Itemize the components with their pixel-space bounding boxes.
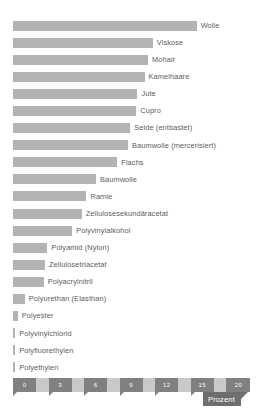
bar-fill [13, 243, 47, 253]
bar-fill [13, 345, 15, 355]
bar-fill [13, 226, 72, 236]
bar-left-margin [0, 85, 13, 102]
bar-left-margin [0, 17, 13, 34]
bar-fill [13, 21, 197, 31]
bar-fill [13, 89, 137, 99]
bar-category-label: Kamelhaare [149, 73, 190, 80]
bar-left-margin [0, 51, 13, 68]
bar-left-margin [0, 308, 13, 325]
bar-category-label: Wolle [201, 22, 220, 29]
bar-row: Cupro [0, 102, 257, 119]
bar-left-margin [0, 154, 13, 171]
bar-left-margin [0, 342, 13, 359]
bar-row: Jute [0, 85, 257, 102]
bar-row: Polyamid (Nylon) [0, 239, 257, 256]
bar-fill [13, 38, 153, 48]
bar-fill [13, 123, 130, 133]
bar-row: Flachs [0, 154, 257, 171]
bar-row: Polyacrylnitril [0, 273, 257, 290]
bar-row: Ramie [0, 188, 257, 205]
bar-fill [13, 260, 45, 270]
x-axis-tick: 0 [13, 378, 36, 392]
bar-left-margin [0, 171, 13, 188]
bar-category-label: Zellulosetriacetat [49, 261, 107, 268]
x-axis-tick: 3 [49, 378, 72, 392]
bar-row: Zellulosesekundäracetat [0, 205, 257, 222]
bar-left-margin [0, 68, 13, 85]
bar-category-label: Polyethylen [19, 364, 58, 371]
bar-category-label: Polyvinylchlorid [19, 330, 72, 337]
bar-category-label: Ramie [90, 193, 112, 200]
bar-fill [13, 209, 82, 219]
bar-left-margin [0, 256, 13, 273]
bar-left-margin [0, 239, 13, 256]
x-axis-tick: 20 [227, 378, 250, 392]
bar-row: Polyurethan (Elasthan) [0, 291, 257, 308]
bar-left-margin [0, 120, 13, 137]
bar-category-label: Zellulosesekundäracetat [86, 210, 168, 217]
bar-left-margin [0, 34, 13, 51]
bar-chart: WolleViskoseMohairKamelhaareJuteCuproSei… [0, 0, 257, 414]
bar-fill [13, 294, 25, 304]
bar-fill [13, 362, 15, 372]
bar-row: Zellulosetriacetat [0, 256, 257, 273]
bar-row: Polyester [0, 308, 257, 325]
bar-left-margin [0, 205, 13, 222]
x-axis-tick: 9 [120, 378, 143, 392]
bar-category-label: Polyvinylalkohol [76, 227, 130, 234]
x-axis-tick: 15 [191, 378, 214, 392]
bar-row: Viskose [0, 34, 257, 51]
bar-category-label: Baumwolle (mercerisiert) [132, 142, 216, 149]
bar-fill [13, 106, 136, 116]
bar-left-margin [0, 222, 13, 239]
bar-fill [13, 140, 128, 150]
bar-left-margin [0, 273, 13, 290]
bar-category-label: Jute [141, 90, 155, 97]
bar-category-label: Flachs [121, 159, 143, 166]
bar-category-label: Mohair [152, 56, 175, 63]
bar-category-label: Seide (entbastet) [134, 124, 192, 131]
x-axis-tick: 6 [84, 378, 107, 392]
bar-row: Wolle [0, 17, 257, 34]
bar-fill [13, 277, 44, 287]
bar-category-label: Polyamid (Nylon) [51, 244, 109, 251]
bar-row: Polyethylen [0, 359, 257, 376]
bar-left-margin [0, 359, 13, 376]
bar-category-label: Cupro [140, 107, 161, 114]
x-axis-unit-label: Prozent [203, 392, 241, 406]
bar-category-label: Viskose [157, 39, 183, 46]
bar-row: Polyfluorethylen [0, 342, 257, 359]
bar-row: Baumwolle [0, 171, 257, 188]
bar-left-margin [0, 376, 13, 393]
bar-fill [13, 311, 18, 321]
bar-category-label: Polyacrylnitril [48, 278, 93, 285]
bar-category-label: Polyurethan (Elasthan) [29, 295, 106, 302]
bar-row: Kamelhaare [0, 68, 257, 85]
bar-row: Polyvinylalkohol [0, 222, 257, 239]
bar-category-label: Polyfluorethylen [19, 347, 73, 354]
bar-fill [13, 174, 96, 184]
bar-fill [13, 328, 15, 338]
bar-row: Polyvinylchlorid [0, 325, 257, 342]
bar-row: Seide (entbastet) [0, 120, 257, 137]
bar-left-margin [0, 291, 13, 308]
x-axis-tick: 12 [155, 378, 178, 392]
bar-row: Baumwolle (mercerisiert) [0, 137, 257, 154]
bar-category-label: Baumwolle [100, 176, 137, 183]
bar-left-margin [0, 102, 13, 119]
bar-fill [13, 191, 86, 201]
bar-fill [13, 72, 145, 82]
bar-fill [13, 157, 117, 167]
x-axis: 036912151820 [13, 378, 250, 392]
bar-category-label: Polyester [22, 312, 54, 319]
bar-left-margin [0, 325, 13, 342]
bar-series: WolleViskoseMohairKamelhaareJuteCuproSei… [0, 17, 257, 393]
bar-left-margin [0, 137, 13, 154]
bar-row: Mohair [0, 51, 257, 68]
bar-left-margin [0, 188, 13, 205]
bar-fill [13, 55, 148, 65]
